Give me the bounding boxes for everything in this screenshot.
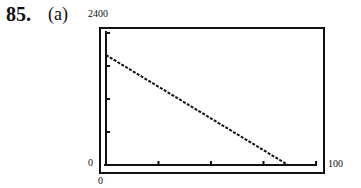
viewing-window-frame: [100, 28, 324, 173]
data-line: [106, 55, 288, 165]
graph-window: [0, 0, 361, 188]
